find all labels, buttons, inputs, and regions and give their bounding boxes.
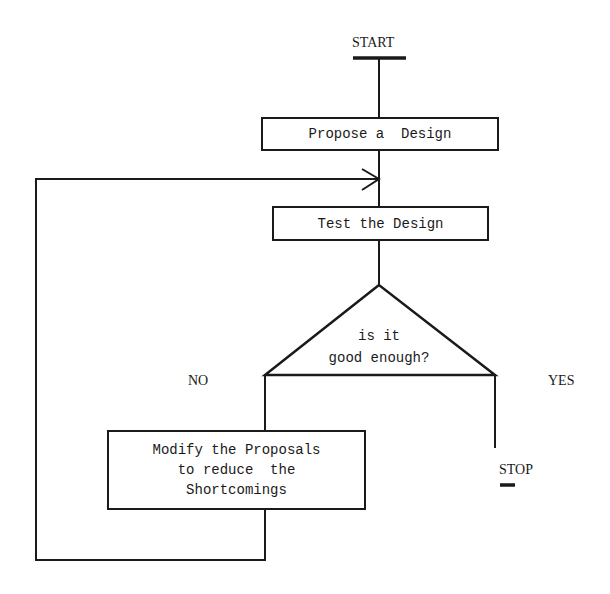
decision-yes-label: YES [548,373,574,389]
step-modify-proposals: Modify the Proposals to reduce the Short… [107,430,366,510]
flowchart-canvas: START Propose a Design Test the Design i… [0,0,610,594]
start-label: START [352,35,394,51]
step-propose-design: Propose a Design [261,117,499,151]
decision-no-label: NO [188,373,208,389]
stop-label: STOP [499,462,533,478]
step-test-design: Test the Design [272,206,489,241]
decision-question-line1: is it [329,326,429,346]
decision-question-line2: good enough? [309,348,449,368]
